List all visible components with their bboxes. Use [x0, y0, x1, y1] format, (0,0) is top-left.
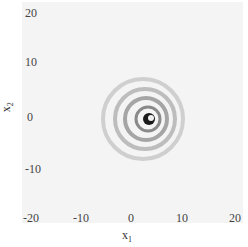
y-tick: 20 [25, 6, 37, 21]
y-tick: 0 [27, 110, 33, 125]
x-tick: 0 [128, 211, 134, 226]
x-axis-label: x1 [122, 228, 132, 244]
x-tick: -20 [23, 211, 39, 226]
heatmap-plot-area [22, 2, 243, 223]
y-tick: -10 [25, 162, 41, 177]
x-tick: 20 [229, 211, 241, 226]
ring-pattern [22, 2, 243, 223]
x-tick: 10 [176, 211, 188, 226]
y-tick: 10 [25, 55, 37, 70]
x-tick: -10 [73, 211, 89, 226]
y-axis-label: x2 [0, 102, 15, 112]
